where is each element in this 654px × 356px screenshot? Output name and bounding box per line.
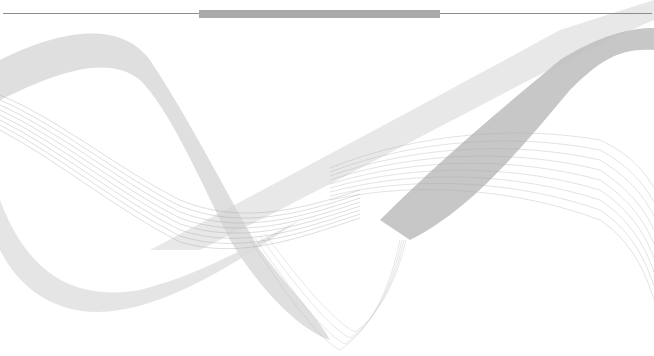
slide-background	[0, 0, 654, 356]
header-accent-bar	[199, 10, 440, 18]
wave-ribbons-graphic	[0, 0, 654, 356]
